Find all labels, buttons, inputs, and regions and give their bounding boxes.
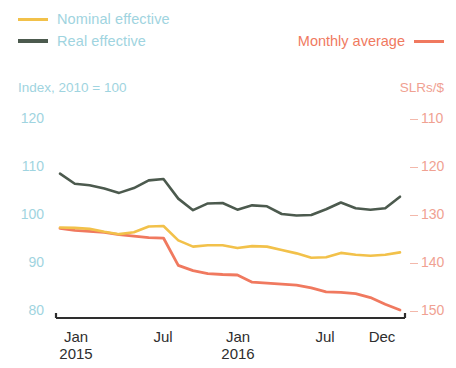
x-axis-tick-3: Jul bbox=[295, 328, 355, 345]
series-line-real-effective bbox=[60, 174, 400, 216]
x-axis-tick-4-month: Dec bbox=[369, 328, 396, 345]
x-axis-tick-0-month: Jan bbox=[64, 328, 88, 345]
x-axis-tick-2-month: Jan bbox=[226, 328, 250, 345]
chart-page: Nominal effective Real effective Monthly… bbox=[0, 0, 456, 368]
series-line-monthly-average bbox=[60, 228, 400, 310]
series-line-nominal-effective bbox=[60, 226, 400, 258]
x-axis-tick-0: Jan 2015 bbox=[46, 328, 106, 362]
x-axis-tick-3-month: Jul bbox=[315, 328, 334, 345]
x-axis-tick-2-year: 2016 bbox=[208, 345, 268, 362]
x-axis-tick-0-year: 2015 bbox=[46, 345, 106, 362]
x-axis-tick-1-month: Jul bbox=[153, 328, 172, 345]
x-axis-tick-4: Dec bbox=[352, 328, 412, 345]
x-axis-tick-1: Jul bbox=[133, 328, 193, 345]
x-axis-tick-2: Jan 2016 bbox=[208, 328, 268, 362]
plot-area: 120 110 100 90 80 110 120 130 140 150 Ja… bbox=[0, 0, 456, 368]
chart-canvas bbox=[0, 0, 456, 368]
